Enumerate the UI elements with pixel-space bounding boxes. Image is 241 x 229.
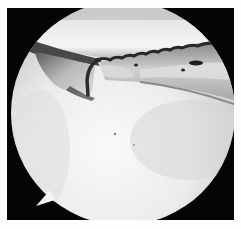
image-canvas xyxy=(0,0,241,229)
dark-spot xyxy=(189,61,203,66)
speck xyxy=(133,144,135,146)
dark-spot xyxy=(181,69,185,72)
dark-spot xyxy=(134,64,138,67)
speck xyxy=(114,133,116,135)
arthroscopy-image xyxy=(0,0,241,229)
